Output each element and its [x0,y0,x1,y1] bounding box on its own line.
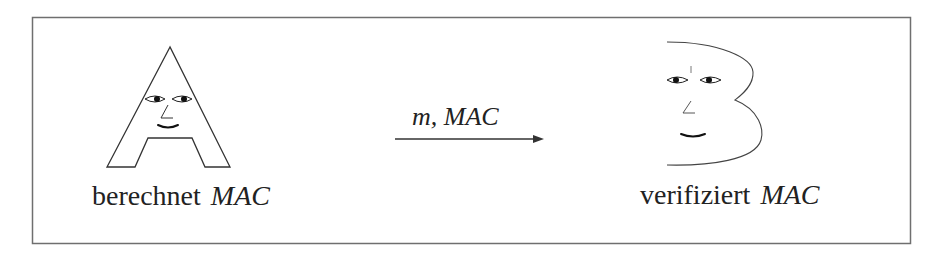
eye-icon [667,77,688,83]
eye-icon [700,77,721,83]
arrowhead-icon [533,135,544,143]
message-label: m, MAC [412,102,499,131]
sender-label-text: berechnet [92,180,201,211]
letter-b-shape [667,42,762,165]
eye-icon [145,96,165,102]
eye-icon [172,96,192,102]
nose-icon [161,105,173,118]
message-arrow: m, MAC [395,102,544,143]
nose-icon [683,101,695,113]
receiver-b-figure [667,42,762,165]
receiver-label: verifiziertMAC [640,179,820,210]
mac-diagram: berechnetMAC m, MAC verifiziertMAC [0,0,937,255]
mouth-icon [681,134,705,137]
receiver-label-text: verifiziert [640,179,751,210]
sender-label-math: MAC [210,180,270,211]
mouth-icon [158,125,178,128]
sender-label: berechnetMAC [92,180,270,211]
letter-a-shape [107,47,230,167]
sender-a-figure [107,47,230,167]
receiver-label-math: MAC [759,179,819,210]
